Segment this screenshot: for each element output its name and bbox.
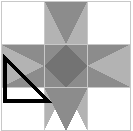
cell-corner-top-right (88, 1, 131, 44)
cell-point-middle-right (88, 44, 131, 87)
quilt-block-figure: Ohio Star quilt block on a three by thre… (0, 0, 133, 131)
cell-point-top-center (44, 1, 87, 44)
cell-corner-bottom-left (1, 88, 44, 131)
cell-center-diamond (44, 44, 87, 87)
quilt-block-canvas (0, 0, 133, 131)
cell-point-middle-left (1, 44, 44, 87)
cell-point-bottom-center (44, 88, 87, 131)
cell-corner-top-left (1, 1, 44, 44)
cell-corner-bottom-right (88, 88, 131, 131)
